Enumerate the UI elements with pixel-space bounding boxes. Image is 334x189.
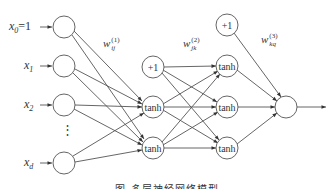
hidden2-unit-label: tanh xyxy=(218,143,235,154)
input-label-x0: x0=1 xyxy=(9,20,31,35)
output-node xyxy=(275,96,297,118)
ellipsis: ⋮ xyxy=(61,127,74,132)
hidden1-bias-label: +1 xyxy=(148,62,159,73)
network-graph: +1 tanh tanh +1 tanh tanh tanh xyxy=(0,0,334,189)
weight-label-layer2: w(2)jk xyxy=(183,36,200,52)
input-node-x2 xyxy=(53,94,75,116)
weight-label-layer1: w(1)ij xyxy=(103,36,120,52)
input-label-x1: x1 xyxy=(24,59,33,74)
figure-caption: 图 多层神经网络模型 xyxy=(0,181,334,189)
hidden1-unit-label: tanh xyxy=(144,102,161,113)
hidden1-unit-label: tanh xyxy=(144,143,161,154)
layer3-edges xyxy=(234,33,281,144)
hidden2-bias-label: +1 xyxy=(222,20,233,31)
input-label-x2: x2 xyxy=(24,98,33,113)
hidden2-unit-label: tanh xyxy=(218,102,235,113)
input-node-x1 xyxy=(53,55,75,77)
hidden2-unit-label: tanh xyxy=(218,61,235,72)
input-node-xd xyxy=(53,152,75,174)
input-label-xd: xd xyxy=(24,156,33,171)
weight-label-layer3: w(3)kq xyxy=(261,32,278,48)
input-node-x0 xyxy=(53,16,75,38)
layer2-edges xyxy=(162,66,220,148)
neural-network-diagram: +1 tanh tanh +1 tanh tanh tanh x0=1 x1 x… xyxy=(0,0,334,189)
